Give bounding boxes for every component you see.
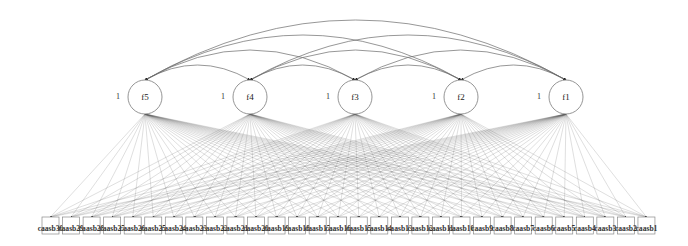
indicator-label: caasb1: [635, 224, 657, 233]
indicator-label: caasb9: [471, 224, 493, 233]
indicator-caasb2[interactable]: caasb2: [615, 217, 637, 234]
loading-f1-caasb1: [566, 114, 646, 217]
variance-label: 1: [537, 92, 541, 101]
loading-f3-caasb29: [71, 114, 355, 217]
indicator-caasb9[interactable]: caasb9: [471, 217, 493, 234]
loading-f1-caasb2: [566, 114, 626, 217]
variance-label: 1: [116, 92, 120, 101]
indicator-label: caasb4: [574, 224, 596, 233]
covariance-arc-f3-f1: [355, 50, 566, 80]
loading-f5-caasb3: [145, 114, 605, 217]
loading-f5-caasb29: [71, 114, 145, 217]
indicator-caasb6[interactable]: caasb6: [533, 217, 555, 234]
variance-label: 1: [432, 92, 436, 101]
loading-f5-caasb25: [145, 114, 153, 217]
indicator-label: caasb6: [533, 224, 555, 233]
loading-f4-caasb10: [250, 114, 462, 217]
indicator-caasb5[interactable]: caasb5: [553, 217, 575, 234]
indicator-label: caasb7: [512, 224, 534, 233]
loading-f2-caasb5: [461, 114, 564, 217]
loading-f1-caasb4: [566, 114, 585, 217]
loading-f1-caasb22: [215, 114, 566, 217]
loading-f4-caasb24: [174, 114, 250, 217]
indicator-label: caasb2: [615, 224, 637, 233]
loading-f2-caasb9: [461, 114, 482, 217]
factor-f2[interactable]: f21: [432, 80, 478, 114]
variance-label: 1: [326, 92, 330, 101]
factor-label: f2: [457, 92, 465, 102]
loading-f5-caasb23: [145, 114, 194, 217]
loading-f3-caasb20: [256, 114, 355, 217]
indicator-label: caasb5: [553, 224, 575, 233]
indicator-caasb3[interactable]: caasb3: [594, 217, 616, 234]
loading-f4-caasb21: [235, 114, 250, 217]
loading-f1-caasb5: [564, 114, 566, 217]
loading-f5-caasb24: [145, 114, 174, 217]
loading-f4-caasb12: [250, 114, 420, 217]
loading-f2-caasb25: [153, 114, 461, 217]
factor-label: f3: [351, 92, 359, 102]
loading-f1-caasb16: [338, 114, 566, 217]
indicator-label: caasb3: [594, 224, 616, 233]
loading-f2-caasb2: [461, 114, 626, 217]
loading-f4-caasb8: [250, 114, 503, 217]
loading-f5-caasb28: [92, 114, 145, 217]
factor-f3[interactable]: f31: [326, 80, 372, 114]
observed-indicators: caasb30caasb29caasb28caasb27caasb26caasb…: [38, 217, 658, 234]
factor-label: f4: [246, 92, 254, 102]
loading-f3-caasb23: [194, 114, 355, 217]
latent-factors: f51f41f31f21f11: [116, 80, 583, 114]
factor-f5[interactable]: f51: [116, 80, 162, 114]
loading-f1-caasb7: [523, 114, 566, 217]
factor-label: f1: [562, 92, 570, 102]
covariance-arc-f3-f2: [355, 65, 461, 80]
loading-f4-caasb2: [250, 114, 626, 217]
covariance-arc-f5-f3: [145, 50, 355, 80]
loading-f5-caasb26: [133, 114, 145, 217]
path-diagram: f51f41f31f21f11 caasb30caasb29caasb28caa…: [0, 0, 688, 246]
covariance-arcs: [145, 20, 566, 80]
loading-f3-caasb16: [338, 114, 355, 217]
loading-lines: [51, 114, 647, 217]
variance-label: 1: [221, 92, 225, 101]
loading-f5-caasb20: [145, 114, 256, 217]
factor-label: f5: [141, 92, 149, 102]
loading-f1-caasb30: [51, 114, 567, 217]
factor-f1[interactable]: f11: [537, 80, 583, 114]
covariance-arc-f2-f1: [461, 65, 566, 80]
indicator-caasb4[interactable]: caasb4: [574, 217, 596, 234]
loading-f4-caasb27: [112, 114, 250, 217]
loading-f2-caasb6: [461, 114, 544, 217]
indicator-label: caasb8: [492, 224, 514, 233]
loading-f2-caasb29: [71, 114, 461, 217]
covariance-arc-f5-f4: [145, 65, 250, 80]
covariance-arc-f4-f3: [250, 65, 355, 80]
loading-f2-caasb10: [461, 114, 462, 217]
indicator-caasb1[interactable]: caasb1: [635, 217, 657, 234]
indicator-caasb7[interactable]: caasb7: [512, 217, 534, 234]
covariance-arc-f4-f2: [250, 50, 461, 80]
loading-f2-caasb12: [420, 114, 461, 217]
factor-f4[interactable]: f41: [221, 80, 267, 114]
loading-f2-caasb28: [92, 114, 461, 217]
loading-f5-caasb21: [145, 114, 235, 217]
loading-f2-caasb11: [441, 114, 461, 217]
indicator-caasb8[interactable]: caasb8: [492, 217, 514, 234]
